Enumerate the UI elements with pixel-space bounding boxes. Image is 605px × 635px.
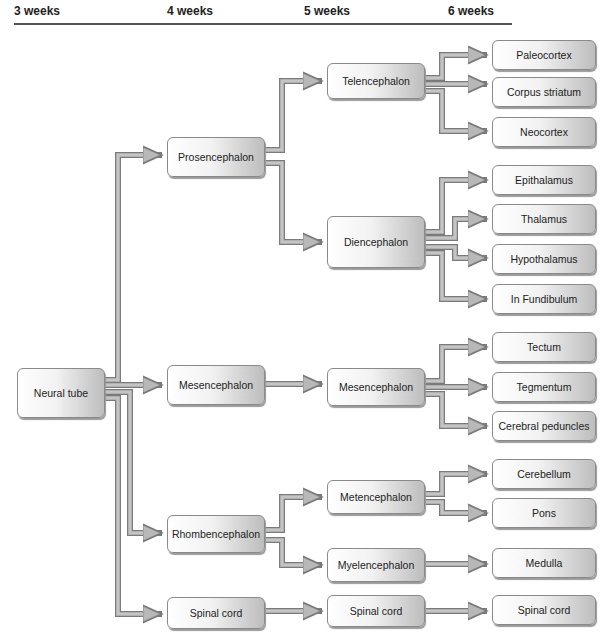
node-mesencephalon-4wk: Mesencephalon [167,365,265,405]
node-cerebral-peduncles: Cerebral peduncles [492,411,596,441]
node-medulla: Medulla [492,548,596,578]
node-spinal-cord-5wk: Spinal cord [327,595,425,627]
node-tectum: Tectum [492,332,596,362]
node-metencephalon: Metencephalon [327,480,425,514]
node-corpus-striatum: Corpus striatum [492,77,596,107]
node-thalamus: Thalamus [492,204,596,234]
node-cerebellum: Cerebellum [492,459,596,489]
node-prosencephalon: Prosencephalon [167,137,265,177]
node-neural-tube: Neural tube [17,368,105,418]
node-spinal-cord-4wk: Spinal cord [167,597,265,629]
node-paleocortex: Paleocortex [492,40,596,70]
node-diencephalon: Diencephalon [327,216,425,268]
node-tegmentum: Tegmentum [492,372,596,402]
node-spinal-cord-6wk: Spinal cord [492,595,596,625]
node-neocortex: Neocortex [492,117,596,147]
node-mesencephalon-5wk: Mesencephalon [327,368,425,406]
node-pons: Pons [492,498,596,528]
node-myelencephalon: Myelencephalon [327,548,425,582]
node-epithalamus: Epithalamus [492,165,596,195]
node-hypothalamus: Hypothalamus [492,244,596,274]
node-infundibulum: In Fundibulum [492,284,596,314]
node-rhombencephalon: Rhombencephalon [167,515,265,553]
node-telencephalon: Telencephalon [327,63,425,99]
